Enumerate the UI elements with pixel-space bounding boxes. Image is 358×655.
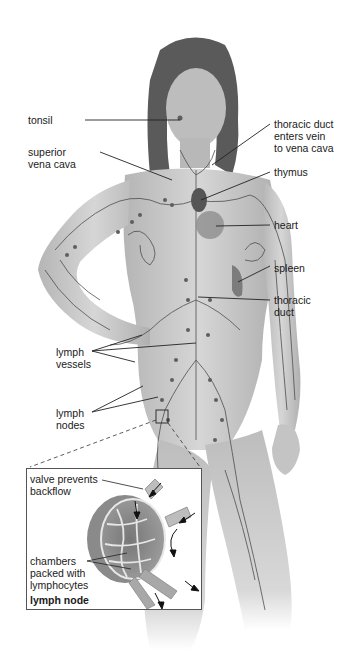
thymus	[191, 188, 207, 212]
lymph-node-inset: valve prevents backflow chambers packed …	[26, 468, 202, 610]
label-lymph-vessels: lymph vessels	[56, 346, 91, 370]
detail-callout-line	[30, 420, 156, 467]
label-heart: heart	[274, 219, 298, 231]
right-hand	[272, 424, 300, 475]
neck	[180, 138, 210, 168]
label-superior-vena-cava: superior vena cava	[28, 146, 76, 170]
label-tonsil: tonsil	[28, 114, 53, 126]
head	[166, 68, 226, 148]
label-thoracic-duct: thoracic duct	[274, 294, 311, 318]
label-valve-prevents-backflow: valve prevents backflow	[30, 473, 98, 497]
heart	[196, 211, 224, 239]
label-chambers-packed-with-lymphocytes: chambers packed with lymphocytes	[30, 555, 88, 591]
label-lymph-nodes: lymph nodes	[56, 407, 85, 431]
inset-title-lymph-node: lymph node	[30, 594, 89, 606]
label-spleen: spleen	[274, 262, 305, 274]
label-thymus: thymus	[274, 166, 308, 178]
label-thoracic-duct-enters-vein: thoracic duct enters vein to vena cava	[274, 118, 334, 154]
lymphatic-system-diagram: tonsil superior vena cava thoracic duct …	[0, 0, 358, 655]
